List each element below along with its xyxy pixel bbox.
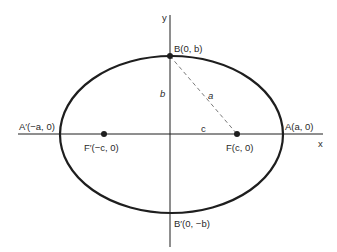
y-axis-label: y (162, 13, 167, 23)
segment-b-label: b (160, 89, 165, 99)
label-F: F(c, 0) (226, 143, 253, 153)
ellipse-diagram: y x B(0, b) B′(0, −b) A(a, 0) A′(−a, 0) … (0, 0, 337, 252)
point-B (167, 53, 173, 59)
segment-a-label: a (208, 91, 213, 101)
label-B-prime: B′(0, −b) (174, 219, 210, 229)
label-F-prime: F′(−c, 0) (84, 143, 119, 153)
label-B: B(0, b) (174, 44, 203, 54)
label-A-prime: A′(−a, 0) (19, 122, 55, 132)
label-A: A(a, 0) (285, 122, 314, 132)
segment-c-label: c (201, 124, 206, 134)
x-axis-label: x (318, 139, 323, 149)
point-F-prime (101, 131, 107, 137)
point-F (234, 131, 240, 137)
